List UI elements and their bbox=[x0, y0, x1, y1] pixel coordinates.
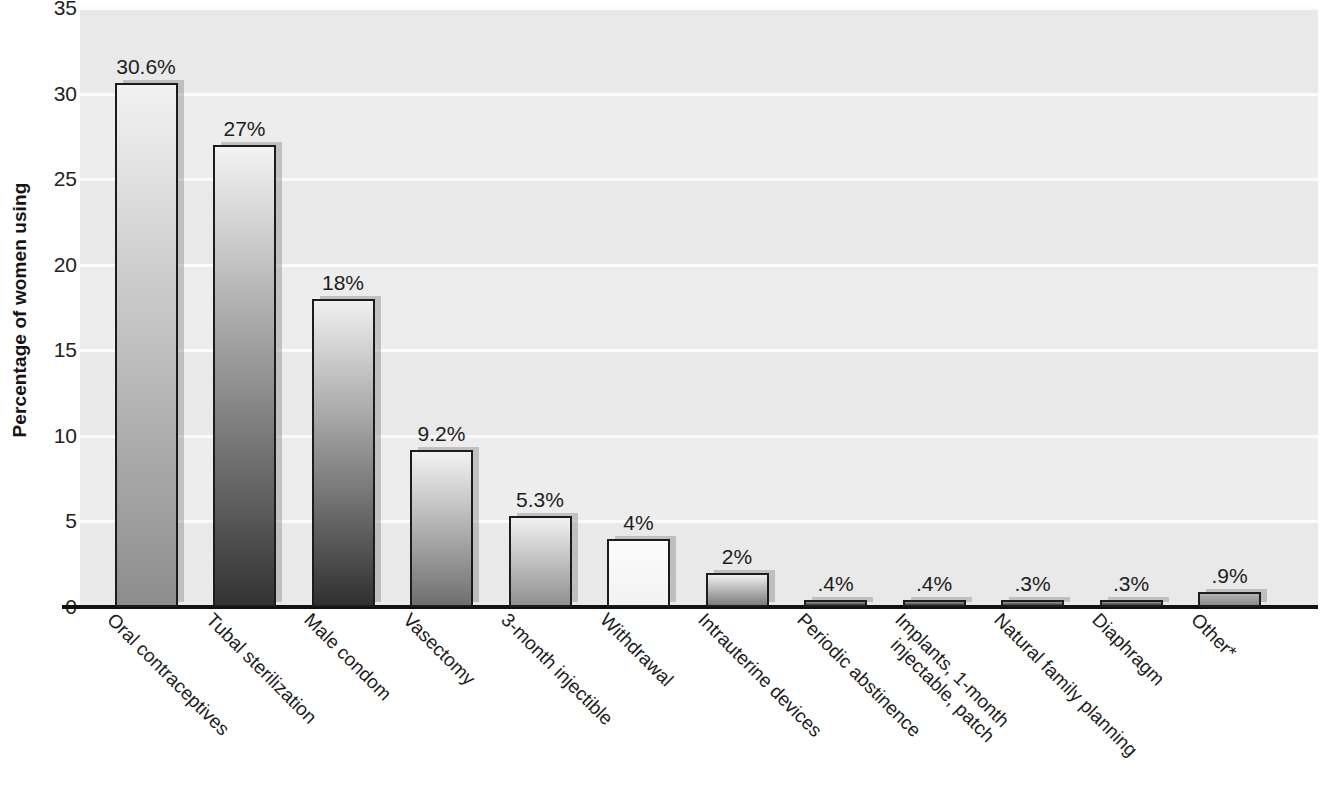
bar[interactable] bbox=[115, 83, 178, 607]
bar[interactable] bbox=[213, 145, 276, 607]
x-axis-label-line: Vasectomy bbox=[398, 609, 478, 689]
bar-value-label: 4% bbox=[579, 512, 698, 533]
y-axis-tick-15: 15 bbox=[31, 339, 77, 360]
x-axis-label-4: Vasectomy bbox=[398, 609, 478, 689]
bar-value-label: 5.3% bbox=[481, 489, 600, 510]
x-axis-label-line: Withdrawal bbox=[595, 609, 676, 690]
bar[interactable] bbox=[706, 573, 769, 607]
y-axis-tick-5: 5 bbox=[31, 510, 77, 531]
x-axis-label-12: Other* bbox=[1186, 609, 1240, 663]
y-axis-tick-20: 20 bbox=[31, 254, 77, 275]
bar[interactable] bbox=[1100, 600, 1163, 607]
bar-group: 27% bbox=[213, 0, 276, 607]
x-axis-label-11: Diaphragm bbox=[1088, 609, 1169, 690]
bar-group: .4% bbox=[903, 0, 966, 607]
bar[interactable] bbox=[903, 600, 966, 607]
x-axis-label-line: Diaphragm bbox=[1088, 609, 1169, 690]
bar[interactable] bbox=[410, 450, 473, 607]
bar-value-label: .9% bbox=[1170, 565, 1289, 586]
bar[interactable] bbox=[804, 600, 867, 607]
x-axis-label-3: Male condom bbox=[300, 609, 396, 705]
bar-group: 18% bbox=[312, 0, 375, 607]
y-axis-tick-30: 30 bbox=[31, 83, 77, 104]
x-axis-label-6: Withdrawal bbox=[595, 609, 676, 690]
bar[interactable] bbox=[509, 516, 572, 607]
bar-group: .9% bbox=[1198, 0, 1261, 607]
y-axis-tick-25: 25 bbox=[31, 168, 77, 189]
bar-value-label: 2% bbox=[678, 546, 797, 567]
bar-value-label: 18% bbox=[284, 272, 403, 293]
y-axis-tick-35: 35 bbox=[31, 0, 77, 18]
bar[interactable] bbox=[1198, 592, 1261, 607]
bar-value-label: 27% bbox=[185, 118, 304, 139]
bar[interactable] bbox=[312, 299, 375, 607]
bar[interactable] bbox=[1001, 600, 1064, 607]
bar-group: 9.2% bbox=[410, 0, 473, 607]
y-axis-tick-10: 10 bbox=[31, 425, 77, 446]
x-axis-tick-labels: Oral contraceptivesTubal sterilizationMa… bbox=[0, 609, 1325, 800]
bar-group: 5.3% bbox=[509, 0, 572, 607]
bar-value-label: 30.6% bbox=[87, 56, 206, 77]
bar-group: .4% bbox=[804, 0, 867, 607]
bar-value-label: 9.2% bbox=[382, 423, 501, 444]
bar-group: .3% bbox=[1100, 0, 1163, 607]
bar-group: .3% bbox=[1001, 0, 1064, 607]
bar-group: 30.6% bbox=[115, 0, 178, 607]
bar-group: 4% bbox=[607, 0, 670, 607]
bar-group: 2% bbox=[706, 0, 769, 607]
x-axis-label-line: Male condom bbox=[300, 609, 396, 705]
y-axis-title-label: Percentage of women using bbox=[9, 183, 31, 438]
bar-chart: Percentage of women using 05101520253035… bbox=[0, 0, 1325, 800]
x-axis-label-line: Other* bbox=[1186, 609, 1240, 663]
bar[interactable] bbox=[607, 539, 670, 607]
